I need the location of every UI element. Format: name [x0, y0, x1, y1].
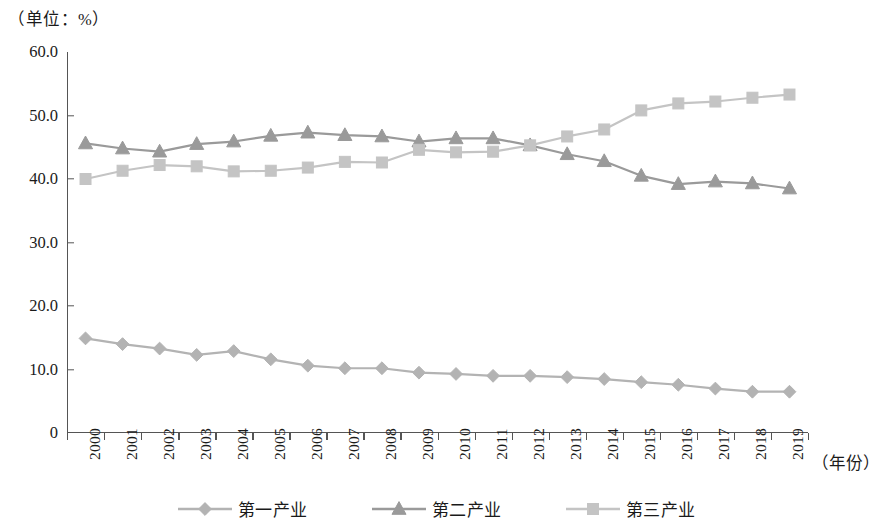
x-axis-tick-label: 2004 [234, 428, 252, 460]
chart-legend: 第一产业第二产业第三产业 [0, 496, 871, 521]
x-axis-tick-mark [623, 433, 624, 440]
x-axis-tick-label-wrap: 2005 [262, 444, 280, 492]
x-axis-tick-label: 2017 [715, 428, 733, 460]
x-axis-tick-mark [549, 433, 550, 440]
legend-item-2[interactable]: 第二产业 [370, 496, 502, 521]
legend-item-3[interactable]: 第三产业 [564, 496, 696, 521]
x-axis-tick-mark [734, 433, 735, 440]
x-axis-tick-mark [289, 433, 290, 440]
x-axis-tick-label-wrap: 2007 [336, 444, 354, 492]
x-axis-tick-label: 2018 [752, 428, 770, 460]
x-axis-tick-label-wrap: 2008 [373, 444, 391, 492]
y-axis-tick-label: 50.0 [0, 106, 58, 126]
data-point-marker [198, 502, 211, 515]
x-axis-tick-label-wrap: 2000 [77, 444, 95, 492]
x-axis-tick-label: 2012 [530, 428, 548, 460]
x-axis-tick-label-wrap: 2001 [114, 444, 132, 492]
x-axis-tick-label: 2010 [456, 428, 474, 460]
legend-swatch-triangle-icon [370, 500, 428, 518]
x-axis-tick-label-wrap: 2016 [669, 444, 687, 492]
x-axis-tick-label: 2005 [271, 428, 289, 460]
x-axis-tick-label: 2001 [123, 428, 141, 460]
y-axis-tick-label: 20.0 [0, 296, 58, 316]
x-axis-tick-mark [475, 433, 476, 440]
y-axis-tick-label: 30.0 [0, 233, 58, 253]
x-axis-tick-label-wrap: 2013 [558, 444, 576, 492]
x-axis-tick-mark [660, 433, 661, 440]
x-axis-tick-label: 2014 [604, 428, 622, 460]
x-axis-tick-label-wrap: 2017 [706, 444, 724, 492]
x-axis-tick-label-wrap: 2015 [632, 444, 650, 492]
x-axis-tick-mark [771, 433, 772, 440]
x-axis-tick-label: 2019 [789, 428, 807, 460]
x-axis-tick-mark [178, 433, 179, 440]
x-axis-tick-label: 2008 [382, 428, 400, 460]
x-axis-tick-label-wrap: 2019 [780, 444, 798, 492]
x-axis-tick-label-wrap: 2004 [225, 444, 243, 492]
x-axis-tick-label: 2000 [86, 428, 104, 460]
data-point-marker [587, 503, 598, 514]
x-axis-tick-label: 2009 [419, 428, 437, 460]
x-axis-tick-label-wrap: 2003 [188, 444, 206, 492]
x-axis-tick-label: 2015 [641, 428, 659, 460]
y-axis-tick-label: 40.0 [0, 169, 58, 189]
x-axis-tick-mark [215, 433, 216, 440]
plot-area [67, 52, 808, 433]
legend-swatch-diamond-icon [176, 500, 234, 518]
x-axis-tick-mark [586, 433, 587, 440]
x-axis-tick-label-wrap: 2018 [743, 444, 761, 492]
unit-caption: （单位：%） [8, 6, 110, 30]
y-axis-line [67, 52, 68, 433]
x-axis-tick-label-wrap: 2006 [299, 444, 317, 492]
y-axis-tick-label: 0 [0, 423, 58, 443]
x-axis-tick-label: 2003 [197, 428, 215, 460]
x-axis-tick-mark [438, 433, 439, 440]
x-axis-tick-label: 2011 [493, 428, 511, 460]
x-axis-tick-mark [141, 433, 142, 440]
x-axis-tick-mark [104, 433, 105, 440]
y-axis-tick-label: 10.0 [0, 360, 58, 380]
y-axis-tick-label: 60.0 [0, 42, 58, 62]
x-axis-tick-mark [67, 433, 68, 440]
legend-swatch-square-icon [564, 500, 622, 518]
legend-label: 第一产业 [238, 496, 308, 521]
x-axis-tick-label: 2002 [160, 428, 178, 460]
x-axis-tick-label-wrap: 2014 [595, 444, 613, 492]
x-axis-tick-mark [512, 433, 513, 440]
x-axis-tick-label: 2013 [567, 428, 585, 460]
x-axis-tick-label-wrap: 2002 [151, 444, 169, 492]
x-axis-tick-label-wrap: 2012 [521, 444, 539, 492]
legend-label: 第三产业 [626, 496, 696, 521]
x-axis-tick-label-wrap: 2011 [484, 444, 502, 492]
x-axis-tick-mark [808, 433, 809, 440]
x-axis-tick-label-wrap: 2010 [447, 444, 465, 492]
legend-label: 第二产业 [432, 496, 502, 521]
x-axis-tick-label: 2006 [308, 428, 326, 460]
x-axis-tick-mark [326, 433, 327, 440]
x-axis-tick-label: 2007 [345, 428, 363, 460]
x-axis-title: （年份） [812, 450, 871, 474]
x-axis-tick-mark [400, 433, 401, 440]
x-axis-tick-mark [252, 433, 253, 440]
x-axis-tick-label-wrap: 2009 [410, 444, 428, 492]
legend-item-1[interactable]: 第一产业 [176, 496, 308, 521]
industry-share-line-chart: （单位：%） 010.020.030.040.050.060.0 2000200… [0, 0, 871, 528]
x-axis-tick-label: 2016 [678, 428, 696, 460]
x-axis-tick-mark [363, 433, 364, 440]
x-axis-tick-mark [697, 433, 698, 440]
